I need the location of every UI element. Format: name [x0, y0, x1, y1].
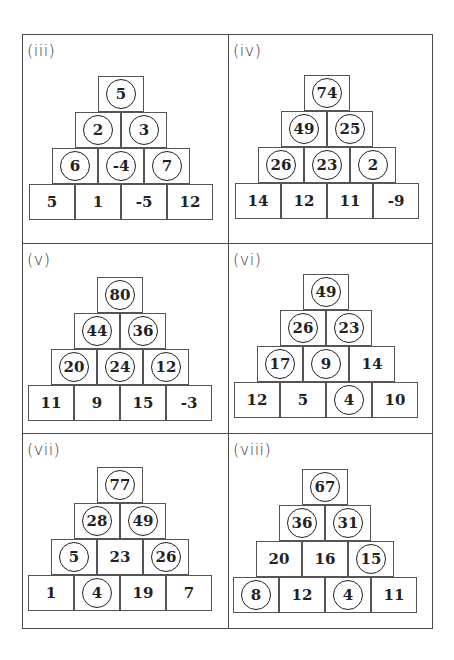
circled-number: 8: [241, 580, 271, 610]
panel-label: (v): [27, 250, 50, 269]
circled-number: 77: [105, 470, 135, 500]
circled-number: 80: [105, 280, 135, 310]
pyramid-cell: 25: [327, 111, 373, 147]
panel-label: (vi): [233, 250, 261, 269]
number-pyramid: 5236-4751-512: [29, 76, 214, 220]
circled-number: 3: [129, 115, 159, 145]
pyramid-cell: 19: [120, 575, 166, 611]
given-number: 10: [380, 385, 410, 415]
circled-number: 6: [60, 151, 90, 181]
pyramid-cell: 9: [74, 385, 120, 421]
pyramid-cell: -5: [121, 184, 167, 220]
pyramid-cell: 4: [74, 575, 120, 611]
circled-number: 4: [82, 578, 112, 608]
pyramid-cell: 77: [97, 467, 143, 503]
given-number: 12: [287, 580, 317, 610]
circled-number: 23: [312, 150, 342, 180]
circled-number: 20: [59, 352, 89, 382]
circled-number: 23: [334, 313, 364, 343]
pyramid-cell: 12: [167, 184, 213, 220]
circled-number: 24: [105, 352, 135, 382]
given-number: 15: [128, 388, 158, 418]
pyramid-cell: 5: [29, 184, 75, 220]
panel-vii: (vii) 7728495232614197: [23, 433, 229, 629]
pyramid-cell: 23: [326, 310, 372, 346]
pyramid-cell: 23: [97, 539, 143, 575]
circled-number: 26: [151, 542, 181, 572]
pyramid-cell: 5: [98, 76, 144, 112]
given-number: 11: [36, 388, 66, 418]
given-number: 9: [82, 388, 112, 418]
pyramid-cell: 49: [120, 503, 166, 539]
pyramid-cell: 12: [143, 349, 189, 385]
pyramid-cell: 1: [28, 575, 74, 611]
given-number: 12: [175, 187, 205, 217]
given-number: 5: [288, 385, 318, 415]
circled-number: 2: [83, 115, 113, 145]
pyramid-cell: 26: [143, 539, 189, 575]
pyramid-cell: 16: [302, 541, 348, 577]
pyramid-cell: 5: [280, 382, 326, 418]
pyramid-cell: 26: [280, 310, 326, 346]
circled-number: 15: [356, 544, 386, 574]
circled-number: 49: [289, 114, 319, 144]
circled-number: 36: [287, 508, 317, 538]
pyramid-cell: 12: [281, 183, 327, 219]
circled-number: 5: [59, 542, 89, 572]
pyramid-cell: 14: [349, 346, 395, 382]
circled-number: 4: [334, 385, 364, 415]
pyramid-cell: 15: [120, 385, 166, 421]
pyramid-cell: 11: [327, 183, 373, 219]
circled-number: 67: [310, 472, 340, 502]
panel-label: (viii): [233, 440, 271, 459]
circled-number: 26: [288, 313, 318, 343]
pyramid-cell: 23: [304, 147, 350, 183]
panel-iv: (iv) 74492526232141211-9: [228, 35, 433, 244]
pyramid-cell: 36: [279, 505, 325, 541]
pyramid-cell: 44: [74, 313, 120, 349]
pyramid-cell: 10: [372, 382, 418, 418]
given-number: 12: [289, 186, 319, 216]
pyramid-cell: 80: [97, 277, 143, 313]
pyramid-cell: 4: [326, 382, 372, 418]
given-number: -9: [381, 186, 411, 216]
given-number: 1: [83, 187, 113, 217]
number-pyramid: 7728495232614197: [28, 467, 213, 611]
given-number: 19: [128, 578, 158, 608]
given-number: 20: [264, 544, 294, 574]
circled-number: 17: [265, 349, 295, 379]
panel-v: (v) 80443620241211915-3: [23, 243, 229, 434]
pyramid-cell: 28: [74, 503, 120, 539]
circled-number: 74: [312, 78, 342, 108]
circled-number: 2: [358, 150, 388, 180]
pyramid-cell: 12: [234, 382, 280, 418]
circled-number: 31: [333, 508, 363, 538]
pyramid-cell: 36: [120, 313, 166, 349]
pyramid-cell: 7: [144, 148, 190, 184]
number-pyramid: 673631201615812411: [233, 469, 418, 613]
pyramid-cell: 20: [256, 541, 302, 577]
panel-label: (iii): [27, 41, 55, 60]
panel-vi: (vi) 49262317914125410: [228, 243, 433, 434]
panel-label: (iv): [233, 41, 261, 60]
given-number: 16: [310, 544, 340, 574]
pyramid-cell: 49: [303, 274, 349, 310]
circled-number: 44: [82, 316, 112, 346]
circled-number: 49: [311, 277, 341, 307]
pyramid-cell: 5: [51, 539, 97, 575]
pyramid-cell: 8: [233, 577, 279, 613]
pyramid-cell: 49: [281, 111, 327, 147]
given-number: 1: [36, 578, 66, 608]
circled-number: 5: [106, 79, 136, 109]
panel-viii: (viii) 673631201615812411: [228, 433, 433, 629]
circled-number: 36: [128, 316, 158, 346]
given-number: -3: [174, 388, 204, 418]
pyramid-cell: 4: [325, 577, 371, 613]
pyramid-cell: 2: [75, 112, 121, 148]
number-pyramid: 74492526232141211-9: [235, 75, 420, 219]
given-number: 7: [174, 578, 204, 608]
pyramid-cell: 26: [258, 147, 304, 183]
circled-number: 9: [311, 349, 341, 379]
circled-number: 12: [151, 352, 181, 382]
circled-number: 4: [333, 580, 363, 610]
